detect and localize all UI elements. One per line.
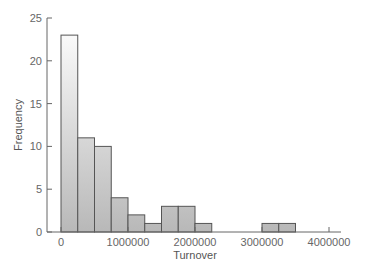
histogram-bar — [262, 223, 279, 232]
y-tick-label: 0 — [36, 226, 42, 238]
histogram-bar — [61, 35, 78, 232]
y-axis-title: Frequency — [12, 99, 24, 151]
y-tick-label: 15 — [30, 98, 42, 110]
histogram-bar — [178, 206, 195, 232]
histogram-bar — [78, 138, 95, 232]
y-tick-label: 10 — [30, 140, 42, 152]
histogram-bar — [162, 206, 179, 232]
histogram-bar — [279, 223, 296, 232]
histogram-bars — [61, 35, 296, 232]
y-tick-label: 20 — [30, 55, 42, 67]
x-tick-label: 3000000 — [241, 236, 284, 248]
x-tick-label: 0 — [58, 236, 64, 248]
histogram-bar — [195, 223, 212, 232]
x-tick-label: 4000000 — [308, 236, 351, 248]
histogram-bar — [111, 198, 128, 232]
y-axis: 0510152025 — [30, 12, 52, 238]
x-tick-label: 1000000 — [107, 236, 150, 248]
histogram-bar — [95, 146, 112, 232]
histogram-bar — [145, 223, 162, 232]
y-tick-label: 25 — [30, 12, 42, 24]
x-axis-title: Turnover — [173, 249, 217, 261]
histogram-chart: 0510152025 01000000200000030000004000000… — [0, 0, 365, 277]
histogram-bar — [128, 215, 145, 232]
y-tick-label: 5 — [36, 183, 42, 195]
x-tick-label: 2000000 — [174, 236, 217, 248]
